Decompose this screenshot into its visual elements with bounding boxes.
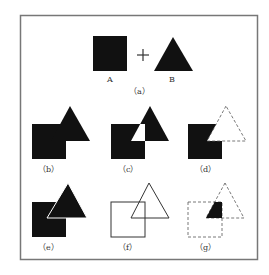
panel-e-label: （e）: [38, 243, 59, 252]
panel-b-label: （b）: [38, 165, 59, 174]
panel-d: （d）: [188, 106, 246, 174]
shape-b-triangle: [154, 37, 193, 71]
shape-b-label: B: [169, 75, 175, 84]
panel-f: （f）: [111, 183, 169, 252]
panel-b: （b）: [32, 106, 90, 174]
panel-a: A B （a）: [93, 36, 193, 96]
panel-f-label: （f）: [118, 243, 137, 252]
panel-g-label: （g）: [195, 243, 216, 252]
panel-c-label: （c）: [118, 165, 138, 174]
overlay-triangle: [47, 183, 87, 218]
panel-g: （g）: [188, 183, 244, 252]
intersect-region: [206, 183, 244, 218]
subtract-triangle-outline: [207, 106, 246, 141]
union-triangle: [51, 106, 90, 141]
shape-a-label: A: [106, 75, 113, 84]
shape-operations-diagram: A B （a） （b） （c） （d） （e） （f） （g）: [0, 0, 269, 275]
outline-triangle: [131, 183, 169, 218]
panel-d-label: （d）: [195, 165, 216, 174]
panel-c: （c）: [111, 106, 169, 174]
panel-a-label: （a）: [129, 87, 150, 96]
panel-e: （e）: [32, 183, 87, 252]
plus-icon: [137, 49, 149, 61]
outline-square: [111, 202, 145, 237]
shape-a-square: [93, 36, 127, 71]
